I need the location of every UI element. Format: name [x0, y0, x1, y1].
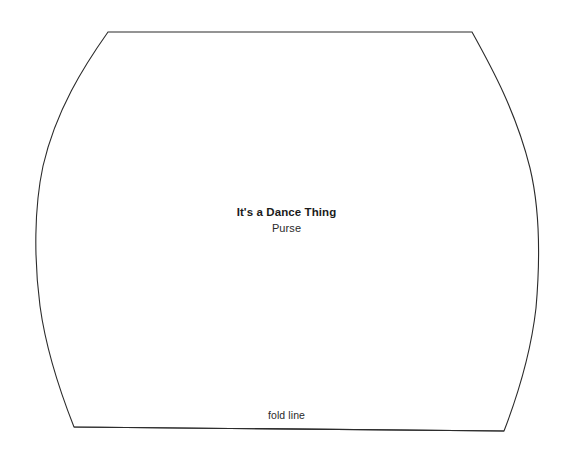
pattern-title: It's a Dance Thing — [0, 207, 573, 219]
center-label-block: It's a Dance Thing Purse — [0, 207, 573, 234]
pattern-subtitle: Purse — [0, 223, 573, 234]
pattern-sheet: It's a Dance Thing Purse fold line — [0, 0, 573, 455]
fold-line-label: fold line — [0, 410, 573, 421]
